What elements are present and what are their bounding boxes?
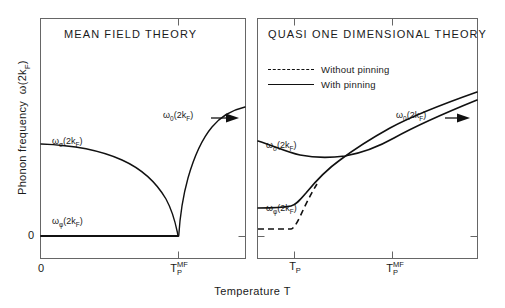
left-arrow-head-icon (226, 114, 239, 123)
left-frame-rect (41, 19, 246, 259)
left-panel-frame (41, 19, 246, 259)
left-curve-sigma-mode-below (41, 144, 178, 236)
right-frame-rect (258, 19, 478, 259)
plot-canvas (0, 0, 505, 308)
right-panel-frame (258, 19, 478, 259)
figure-root: Phonon frequency ω(2kF) Temperature T ME… (0, 0, 505, 308)
right-arrow-head-icon (457, 114, 470, 123)
left-curve-sigma-mode-above (179, 107, 245, 236)
right-omega-zero-arrow (445, 114, 470, 123)
right-curve-sigma-mode (258, 100, 477, 157)
